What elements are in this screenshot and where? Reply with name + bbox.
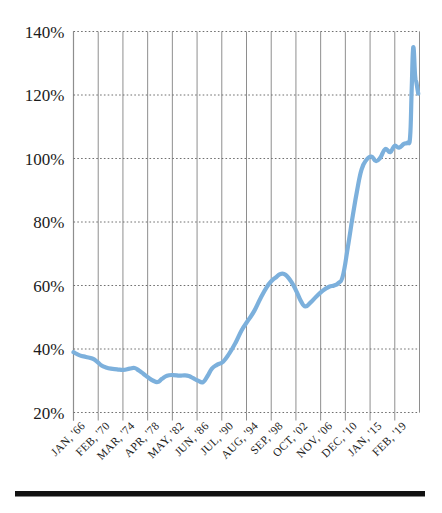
ytick-label-60: 60% (33, 277, 64, 296)
ytick-label-20: 20% (33, 404, 64, 423)
line-chart: 20%40%60%80%100%120%140%JAN, '66FEB, '70… (0, 0, 442, 513)
ytick-label-120: 120% (25, 86, 65, 105)
ytick-label-140: 140% (25, 23, 65, 42)
ytick-label-100: 100% (25, 150, 65, 169)
ytick-label-80: 80% (33, 213, 64, 232)
data-series-line (74, 47, 419, 382)
chart-figure: 20%40%60%80%100%120%140%JAN, '66FEB, '70… (0, 0, 442, 513)
ytick-label-40: 40% (33, 340, 64, 359)
bottom-rule (15, 491, 425, 497)
